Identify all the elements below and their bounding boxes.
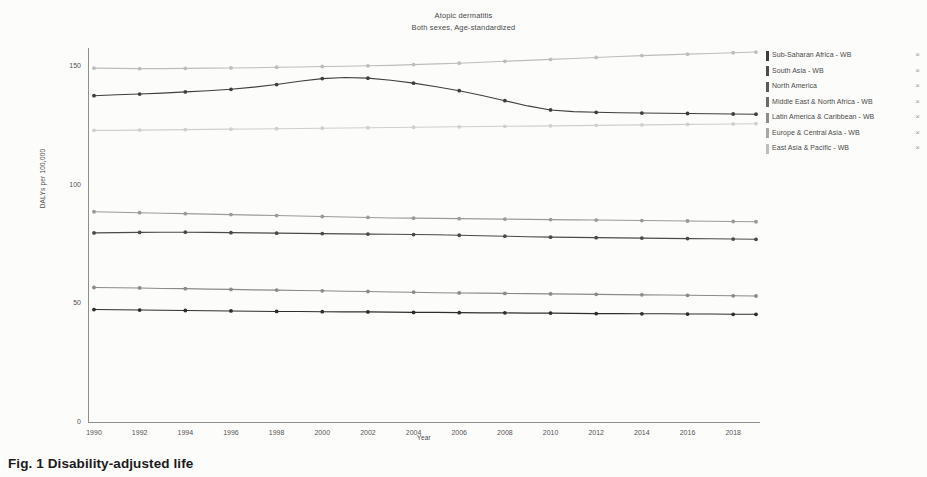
data-point[interactable]	[640, 54, 644, 58]
data-point[interactable]	[686, 219, 690, 223]
data-point[interactable]	[457, 311, 461, 315]
legend-remove-icon[interactable]: ×	[913, 112, 922, 122]
data-point[interactable]	[731, 220, 735, 224]
data-point[interactable]	[731, 122, 735, 126]
data-point[interactable]	[686, 237, 690, 241]
data-point[interactable]	[503, 217, 507, 221]
data-point[interactable]	[92, 308, 96, 312]
data-point[interactable]	[275, 214, 279, 218]
data-point[interactable]	[549, 124, 553, 128]
data-point[interactable]	[594, 56, 598, 60]
data-point[interactable]	[229, 87, 233, 91]
data-point[interactable]	[503, 234, 507, 238]
data-point[interactable]	[138, 211, 142, 215]
data-point[interactable]	[138, 67, 142, 71]
data-point[interactable]	[138, 92, 142, 96]
data-point[interactable]	[457, 291, 461, 295]
data-point[interactable]	[549, 292, 553, 296]
data-point[interactable]	[686, 112, 690, 116]
data-point[interactable]	[229, 213, 233, 217]
legend-item[interactable]: Middle East & North Africa - WB×	[766, 97, 922, 108]
legend-remove-icon[interactable]: ×	[913, 97, 922, 107]
data-point[interactable]	[754, 220, 758, 224]
data-point[interactable]	[320, 77, 324, 81]
data-point[interactable]	[138, 128, 142, 132]
legend-item[interactable]: South Asia - WB×	[766, 66, 922, 77]
data-point[interactable]	[412, 125, 416, 129]
data-point[interactable]	[503, 99, 507, 103]
data-point[interactable]	[754, 312, 758, 316]
data-point[interactable]	[549, 57, 553, 61]
data-point[interactable]	[92, 231, 96, 235]
data-point[interactable]	[549, 108, 553, 112]
data-point[interactable]	[275, 310, 279, 314]
data-point[interactable]	[183, 230, 187, 234]
legend-remove-icon[interactable]: ×	[913, 128, 922, 138]
data-point[interactable]	[138, 286, 142, 290]
data-point[interactable]	[503, 124, 507, 128]
data-point[interactable]	[92, 210, 96, 214]
data-point[interactable]	[366, 76, 370, 80]
data-point[interactable]	[686, 52, 690, 56]
data-point[interactable]	[754, 294, 758, 298]
data-point[interactable]	[640, 236, 644, 240]
data-point[interactable]	[366, 64, 370, 68]
data-point[interactable]	[92, 286, 96, 290]
data-point[interactable]	[754, 122, 758, 126]
data-point[interactable]	[640, 293, 644, 297]
data-point[interactable]	[731, 294, 735, 298]
legend-item[interactable]: Sub-Saharan Africa - WB×	[766, 50, 922, 61]
data-point[interactable]	[366, 290, 370, 294]
data-point[interactable]	[412, 63, 416, 67]
data-point[interactable]	[275, 288, 279, 292]
data-point[interactable]	[594, 218, 598, 222]
data-point[interactable]	[549, 311, 553, 315]
data-point[interactable]	[183, 309, 187, 313]
data-point[interactable]	[594, 312, 598, 316]
data-point[interactable]	[503, 59, 507, 63]
data-point[interactable]	[754, 50, 758, 54]
data-point[interactable]	[549, 235, 553, 239]
data-point[interactable]	[457, 61, 461, 65]
data-point[interactable]	[320, 310, 324, 314]
data-point[interactable]	[138, 231, 142, 235]
data-point[interactable]	[183, 287, 187, 291]
data-point[interactable]	[275, 127, 279, 131]
data-point[interactable]	[594, 236, 598, 240]
data-point[interactable]	[594, 110, 598, 114]
data-point[interactable]	[686, 293, 690, 297]
data-point[interactable]	[549, 218, 553, 222]
data-point[interactable]	[366, 232, 370, 236]
data-point[interactable]	[320, 215, 324, 219]
data-point[interactable]	[229, 231, 233, 235]
data-point[interactable]	[457, 217, 461, 221]
data-point[interactable]	[183, 67, 187, 71]
data-point[interactable]	[320, 65, 324, 69]
data-point[interactable]	[457, 125, 461, 129]
legend-remove-icon[interactable]: ×	[913, 143, 922, 153]
legend-item[interactable]: Latin America & Caribbean - WB×	[766, 112, 922, 123]
data-point[interactable]	[275, 231, 279, 235]
data-point[interactable]	[320, 289, 324, 293]
data-point[interactable]	[366, 310, 370, 314]
data-point[interactable]	[640, 312, 644, 316]
data-point[interactable]	[594, 292, 598, 296]
legend-item[interactable]: Europe & Central Asia - WB×	[766, 128, 922, 139]
data-point[interactable]	[92, 66, 96, 70]
data-point[interactable]	[229, 66, 233, 70]
data-point[interactable]	[183, 212, 187, 216]
data-point[interactable]	[412, 290, 416, 294]
data-point[interactable]	[275, 83, 279, 87]
data-point[interactable]	[412, 233, 416, 237]
data-point[interactable]	[640, 219, 644, 223]
data-point[interactable]	[503, 311, 507, 315]
legend-remove-icon[interactable]: ×	[913, 50, 922, 60]
data-point[interactable]	[229, 287, 233, 291]
data-point[interactable]	[138, 308, 142, 312]
data-point[interactable]	[457, 89, 461, 93]
data-point[interactable]	[183, 90, 187, 94]
data-point[interactable]	[92, 128, 96, 132]
data-point[interactable]	[686, 312, 690, 316]
data-point[interactable]	[754, 237, 758, 241]
data-point[interactable]	[366, 216, 370, 220]
